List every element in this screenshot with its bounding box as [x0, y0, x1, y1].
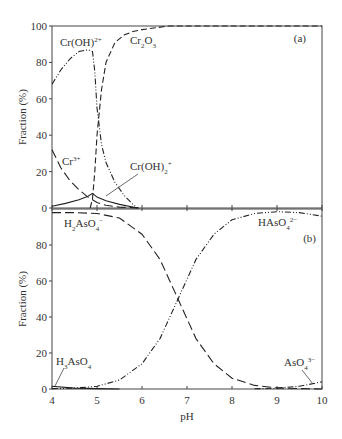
label-cr2o3: Cr2O3: [130, 34, 156, 50]
x-tick-label: 7: [184, 394, 190, 406]
label-h3aso4: H3AsO4: [56, 355, 92, 371]
x-tick-label: 8: [229, 394, 235, 406]
x-tick-label: 9: [274, 394, 280, 406]
series-cr-oh-2-: [52, 50, 138, 208]
label-croh2-plus: Cr(OH)2+: [130, 160, 172, 176]
y-axis-label: Fraction (%): [16, 89, 29, 145]
label-cr3plus: Cr3+: [62, 155, 81, 167]
x-tick-label: 6: [139, 394, 145, 406]
label-croh2plus: Cr(OH)2+: [60, 36, 102, 49]
panel-frame: [52, 209, 322, 389]
y-tick-label: 60: [36, 275, 48, 287]
chart-labels: 100806040200Fraction (%)806040200Fractio…: [16, 20, 328, 422]
y-tick-label: 0: [42, 383, 48, 395]
series-haso4-2-: [52, 212, 322, 389]
label-h2aso4: H2AsO4−: [64, 217, 103, 233]
y-tick-label: 40: [36, 129, 48, 141]
panel-label-b: (b): [303, 232, 316, 245]
x-tick-label: 10: [317, 394, 329, 406]
y-tick-label: 40: [36, 311, 48, 323]
label-aso4: AsO43−: [284, 356, 315, 372]
y-tick-label: 0: [42, 202, 48, 214]
speciation-chart: 100806040200Fraction (%)806040200Fractio…: [0, 0, 342, 439]
x-tick-label: 4: [49, 394, 55, 406]
y-axis-label: Fraction (%): [16, 271, 29, 327]
y-tick-label: 60: [36, 93, 48, 105]
y-tick-label: 20: [36, 347, 48, 359]
y-tick-label: 100: [31, 20, 48, 32]
label-haso4: HAsO42−: [258, 216, 297, 232]
x-tick-label: 5: [94, 394, 100, 406]
y-tick-label: 20: [36, 166, 48, 178]
series-cr2o3: [90, 26, 322, 208]
panel-label-a: (a): [294, 32, 307, 45]
series-h2aso4-: [52, 213, 322, 389]
y-tick-label: 80: [36, 56, 48, 68]
x-axis-label: pH: [180, 410, 194, 422]
y-tick-label: 80: [36, 239, 48, 251]
